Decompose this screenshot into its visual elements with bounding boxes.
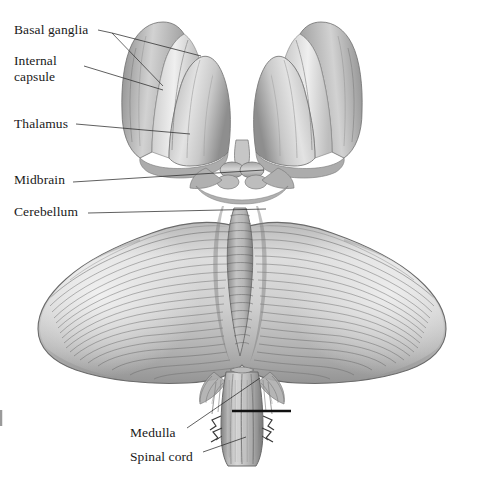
inferior-colliculus-left xyxy=(217,175,239,189)
label-medulla: Medulla xyxy=(130,425,176,441)
label-cerebellum: Cerebellum xyxy=(14,204,78,220)
label-internal-capsule: Internal capsule xyxy=(14,53,57,85)
label-basal-ganglia: Basal ganglia xyxy=(14,22,88,38)
label-thalamus: Thalamus xyxy=(14,116,68,132)
brain-illustration xyxy=(0,0,484,482)
midbrain-central-column xyxy=(235,140,250,166)
figure-canvas: Basal ganglia Internal capsule Thalamus … xyxy=(0,0,484,482)
label-spinal-cord: Spinal cord xyxy=(130,449,193,465)
label-midbrain: Midbrain xyxy=(14,172,65,188)
inferior-colliculus-right xyxy=(245,175,267,189)
obex xyxy=(230,367,254,373)
